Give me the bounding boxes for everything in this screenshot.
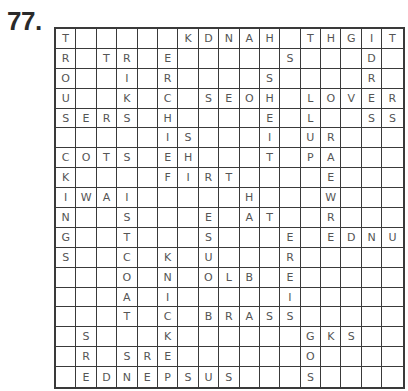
grid-cell: R bbox=[199, 168, 219, 188]
grid-cell bbox=[362, 347, 382, 367]
grid-cell bbox=[341, 128, 361, 148]
grid-cell bbox=[362, 367, 382, 387]
grid-cell bbox=[341, 69, 361, 89]
grid-cell: I bbox=[158, 288, 178, 308]
grid-cell bbox=[301, 268, 321, 288]
grid-cell bbox=[138, 89, 158, 109]
grid-cell bbox=[76, 208, 96, 228]
grid-cell bbox=[199, 128, 219, 148]
grid-cell bbox=[138, 148, 158, 168]
grid-cell: B bbox=[240, 268, 260, 288]
grid-cell: D bbox=[97, 367, 117, 387]
grid-cell bbox=[158, 208, 178, 228]
grid-cell bbox=[321, 288, 341, 308]
grid-cell bbox=[260, 347, 280, 367]
grid-cell: R bbox=[321, 128, 341, 148]
grid-cell bbox=[341, 268, 361, 288]
grid-cell: E bbox=[199, 208, 219, 228]
grid-cell: F bbox=[158, 168, 178, 188]
grid-cell bbox=[382, 69, 402, 89]
grid-cell bbox=[301, 49, 321, 69]
grid-cell bbox=[76, 128, 96, 148]
grid-cell bbox=[97, 347, 117, 367]
grid-cell: R bbox=[280, 248, 300, 268]
grid-cell: T bbox=[260, 148, 280, 168]
grid-cell bbox=[97, 288, 117, 308]
grid-cell bbox=[260, 367, 280, 387]
grid-cell: I bbox=[178, 168, 198, 188]
grid-cell: E bbox=[362, 89, 382, 109]
grid-cell bbox=[138, 49, 158, 69]
grid-cell: H bbox=[240, 188, 260, 208]
grid-cell bbox=[240, 248, 260, 268]
grid-cell bbox=[56, 288, 76, 308]
grid-cell bbox=[76, 288, 96, 308]
grid-cell: E bbox=[321, 168, 341, 188]
grid-cell: S bbox=[280, 49, 300, 69]
grid-cell: S bbox=[219, 367, 239, 387]
grid-cell bbox=[117, 128, 137, 148]
grid-cell bbox=[280, 69, 300, 89]
grid-cell: E bbox=[219, 89, 239, 109]
grid-cell bbox=[240, 228, 260, 248]
grid-cell bbox=[219, 49, 239, 69]
grid-cell: S bbox=[260, 69, 280, 89]
grid-cell: S bbox=[117, 347, 137, 367]
grid-cell: T bbox=[260, 208, 280, 228]
grid-cell: A bbox=[240, 29, 260, 49]
grid-cell bbox=[382, 367, 402, 387]
grid-cell: S bbox=[178, 367, 198, 387]
grid-cell bbox=[138, 69, 158, 89]
grid-cell bbox=[117, 29, 137, 49]
grid-cell: T bbox=[117, 307, 137, 327]
grid-cell bbox=[240, 367, 260, 387]
grid-cell: N bbox=[56, 208, 76, 228]
grid-cell: S bbox=[56, 248, 76, 268]
grid-cell bbox=[199, 327, 219, 347]
grid-cell: H bbox=[158, 109, 178, 129]
grid-cell bbox=[382, 327, 402, 347]
grid-cell bbox=[382, 268, 402, 288]
grid-cell bbox=[321, 307, 341, 327]
grid-cell: S bbox=[280, 307, 300, 327]
grid-cell: K bbox=[158, 327, 178, 347]
grid-cell bbox=[97, 248, 117, 268]
grid-cell bbox=[362, 327, 382, 347]
grid-cell: T bbox=[97, 148, 117, 168]
grid-cell bbox=[362, 208, 382, 228]
grid-cell bbox=[178, 327, 198, 347]
grid-cell: K bbox=[178, 29, 198, 49]
grid-cell bbox=[321, 268, 341, 288]
grid-cell bbox=[97, 29, 117, 49]
grid-cell bbox=[382, 168, 402, 188]
grid-cell bbox=[219, 188, 239, 208]
grid-cell bbox=[301, 288, 321, 308]
grid-cell bbox=[219, 148, 239, 168]
grid-cell: O bbox=[117, 268, 137, 288]
grid-cell bbox=[56, 128, 76, 148]
grid-cell bbox=[341, 248, 361, 268]
grid-cell bbox=[362, 128, 382, 148]
grid-cell: G bbox=[301, 327, 321, 347]
grid-cell bbox=[382, 248, 402, 268]
grid-cell: I bbox=[280, 288, 300, 308]
grid-cell bbox=[280, 327, 300, 347]
grid-cell bbox=[76, 228, 96, 248]
grid-cell bbox=[199, 109, 219, 129]
grid-cell: C bbox=[158, 307, 178, 327]
grid-cell bbox=[362, 188, 382, 208]
grid-cell bbox=[138, 307, 158, 327]
grid-cell: R bbox=[219, 307, 239, 327]
grid-cell bbox=[280, 168, 300, 188]
grid-cell: I bbox=[117, 188, 137, 208]
grid-cell bbox=[280, 148, 300, 168]
grid-cell bbox=[219, 69, 239, 89]
grid-cell: C bbox=[117, 248, 137, 268]
grid-cell bbox=[97, 69, 117, 89]
grid-cell: G bbox=[56, 228, 76, 248]
grid-cell bbox=[341, 148, 361, 168]
grid-cell bbox=[158, 188, 178, 208]
grid-cell bbox=[219, 248, 239, 268]
grid-cell: A bbox=[240, 307, 260, 327]
grid-cell: U bbox=[56, 89, 76, 109]
